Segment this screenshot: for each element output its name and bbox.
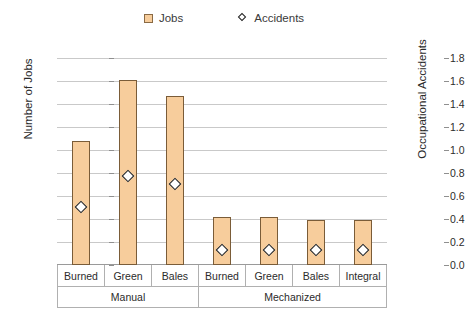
y-axis-tick-mark <box>109 81 114 82</box>
y-axis-tick-mark <box>109 104 114 105</box>
y2-axis-title: Occupational Accidents <box>416 24 428 174</box>
y-axis-tick-mark <box>109 219 114 220</box>
category-label: Green <box>105 265 152 286</box>
y2-axis-tick-label: 1.0 <box>450 144 469 156</box>
y2-axis-tick-label: 1.4 <box>450 98 469 110</box>
legend-item-jobs: Jobs <box>144 12 183 24</box>
category-axis-table: BurnedGreenBalesBurnedGreenBalesIntegral… <box>57 265 387 308</box>
category-label: Green <box>246 265 293 286</box>
y2-axis-tick-mark <box>444 81 449 82</box>
y-axis-tick-mark <box>109 242 114 243</box>
legend-label-accidents: Accidents <box>254 12 304 24</box>
jobs-swatch-icon <box>144 14 153 23</box>
y2-axis-tick-mark <box>444 173 449 174</box>
y-axis-tick-mark <box>109 150 114 151</box>
accidents-diamond-icon <box>237 13 248 24</box>
y-axis-title: Number of Jobs <box>22 24 34 174</box>
gridline <box>57 104 387 105</box>
y2-axis-tick-mark <box>444 104 449 105</box>
y2-axis-tick-label: 0.8 <box>450 167 469 179</box>
gridline <box>57 196 387 197</box>
chart-legend: Jobs Accidents <box>0 12 448 24</box>
y2-axis-tick-mark <box>444 265 449 266</box>
group-label-row: ManualMechanized <box>58 286 386 307</box>
y2-axis-tick-mark <box>444 196 449 197</box>
y2-axis-tick-mark <box>444 219 449 220</box>
y-axis-tick-mark <box>109 58 114 59</box>
category-label-row: BurnedGreenBalesBurnedGreenBalesIntegral <box>58 265 386 286</box>
gridline <box>57 58 387 59</box>
y-axis-tick-mark <box>109 196 114 197</box>
y2-axis-tick-label: 0.2 <box>450 236 469 248</box>
category-label: Burned <box>199 265 246 286</box>
bar-jobs <box>354 220 372 265</box>
group-label: Mechanized <box>199 287 386 307</box>
category-label: Integral <box>340 265 386 286</box>
y2-axis-tick-mark <box>444 242 449 243</box>
y2-axis-tick-label: 0.0 <box>450 259 469 271</box>
group-label: Manual <box>58 287 199 307</box>
y-axis-tick-mark <box>109 127 114 128</box>
plot-area: 00.020.240.460.680.8101.0121.2141.4161.6… <box>57 58 387 265</box>
gridline <box>57 173 387 174</box>
y2-axis-tick-label: 0.4 <box>450 213 469 225</box>
category-label: Bales <box>293 265 340 286</box>
y2-axis-tick-mark <box>444 58 449 59</box>
y-axis-tick-mark <box>109 173 114 174</box>
y2-axis-tick-mark <box>444 127 449 128</box>
y2-axis-tick-label: 1.2 <box>450 121 469 133</box>
y2-axis-tick-label: 0.6 <box>450 190 469 202</box>
gridline <box>57 81 387 82</box>
y2-axis-tick-mark <box>444 150 449 151</box>
y2-axis-tick-label: 1.6 <box>450 75 469 87</box>
gridline <box>57 150 387 151</box>
category-label: Bales <box>152 265 199 286</box>
gridline <box>57 127 387 128</box>
bar-jobs <box>260 217 278 265</box>
bar-jobs <box>307 220 325 265</box>
legend-label-jobs: Jobs <box>159 12 183 24</box>
y2-axis-tick-label: 1.8 <box>450 52 469 64</box>
legend-item-accidents: Accidents <box>237 12 304 24</box>
category-label: Burned <box>58 265 105 286</box>
bar-jobs <box>213 217 231 265</box>
